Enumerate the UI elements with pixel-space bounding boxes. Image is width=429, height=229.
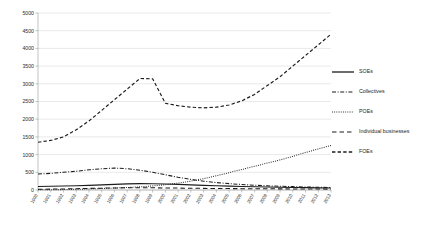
x-axis-tick-label: 2006 [233, 193, 243, 205]
y-axis-tick-label: 1500 [22, 134, 34, 140]
x-axis-tick-label: 1994 [80, 193, 90, 205]
legend-line-swatch [332, 68, 354, 76]
y-axis-tick-label: 3500 [22, 63, 34, 69]
series-line-soes [38, 184, 331, 188]
x-axis-tick-label: 2001 [170, 193, 180, 205]
legend-label: Collectives [359, 89, 385, 94]
x-axis-tick-label: 1995 [93, 193, 103, 205]
legend-line-swatch [332, 148, 354, 156]
x-axis-tick-label: 2010 [284, 193, 294, 205]
y-axis-tick-label: 5000 [22, 10, 34, 16]
x-axis-tick-label: 2009 [271, 193, 281, 205]
x-axis-tick-label: 1997 [119, 193, 129, 205]
x-axis-tick-label: 1996 [106, 193, 116, 205]
legend-item-poes[interactable]: POEs [332, 102, 429, 122]
x-axis-tick-label: 2004 [208, 193, 218, 205]
legend-label: SOEs [359, 69, 373, 74]
x-axis-tick-label: 2008 [259, 193, 269, 205]
y-axis-tick-label: 4000 [22, 45, 34, 51]
legend-line-swatch [332, 128, 354, 136]
x-axis-tick-label: 2002 [182, 193, 192, 205]
x-axis-tick-label: 2005 [221, 193, 231, 205]
y-axis-tick-label: 500 [25, 169, 34, 175]
legend-item-individual-businesses[interactable]: Individual businesses [332, 122, 429, 142]
line-chart-svg: 0500100015002000250030003500400045005000… [0, 0, 340, 229]
y-axis-tick-label: 2500 [22, 98, 34, 104]
y-axis-tick-label: 1000 [22, 152, 34, 158]
chart-legend: SOEsCollectivesPOEsIndividual businesses… [332, 62, 429, 162]
y-axis-tick-label: 4500 [22, 28, 34, 34]
data-series-layer [38, 34, 331, 190]
x-axis-tick-label: 2007 [246, 193, 256, 205]
legend-label: Individual businesses [359, 129, 409, 134]
x-axis-tick-labels: 1990199119921993199419951996199719981999… [29, 193, 332, 205]
y-axis-tick-marks [36, 13, 39, 190]
legend-label: FOEs [359, 149, 373, 154]
x-axis-tick-label: 1999 [144, 193, 154, 205]
legend-item-foes[interactable]: FOEs [332, 142, 429, 162]
x-axis-tick-label: 2013 [322, 193, 332, 205]
legend-line-swatch [332, 108, 354, 116]
x-axis-tick-label: 1992 [55, 193, 65, 205]
x-axis-tick-marks [38, 190, 331, 193]
series-line-foes [38, 34, 331, 142]
series-line-individual-businesses [38, 188, 331, 190]
gridlines [38, 13, 331, 190]
plot-area: 0500100015002000250030003500400045005000… [0, 0, 340, 229]
x-axis-tick-label: 2011 [297, 193, 306, 204]
x-axis-tick-label: 1998 [131, 193, 141, 205]
x-axis-tick-label: 1993 [68, 193, 78, 205]
y-axis-tick-label: 2000 [22, 116, 34, 122]
legend-item-collectives[interactable]: Collectives [332, 82, 429, 102]
series-line-poes [38, 145, 331, 189]
y-axis-tick-label: 3000 [22, 81, 34, 87]
x-axis-tick-label: 2003 [195, 193, 205, 205]
y-axis-tick-label: 0 [31, 187, 34, 193]
chart-container: 0500100015002000250030003500400045005000… [0, 0, 429, 229]
y-axis-tick-labels: 0500100015002000250030003500400045005000 [22, 10, 34, 193]
legend-item-soes[interactable]: SOEs [332, 62, 429, 82]
x-axis-tick-label: 1991 [42, 193, 52, 205]
x-axis-tick-label: 2000 [157, 193, 167, 205]
x-axis-tick-label: 1990 [29, 193, 39, 205]
legend-label: POEs [359, 109, 373, 114]
x-axis-tick-label: 2012 [310, 193, 320, 205]
legend-line-swatch [332, 88, 354, 96]
